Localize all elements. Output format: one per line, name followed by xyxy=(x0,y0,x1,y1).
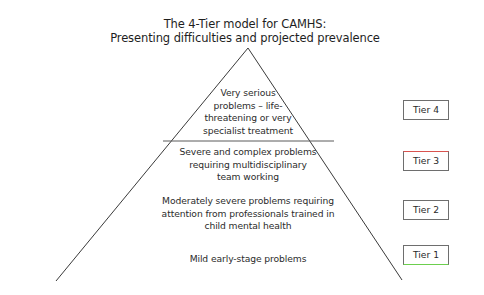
tier-3-description: Severe and complex problems requiring mu… xyxy=(148,146,348,184)
tier-1-label: Tier 1 xyxy=(403,245,449,265)
tier-2-line: Moderately severe problems requiring xyxy=(128,195,368,208)
tier-2-label: Tier 2 xyxy=(403,200,449,220)
tier-4-line: threatening or very xyxy=(168,112,328,125)
tier-1-line: Mild early-stage problems xyxy=(128,253,368,266)
tier-4-description: Very serious problems – life- threatenin… xyxy=(168,87,328,137)
tier-3-line: team working xyxy=(148,171,348,184)
tier-1-description: Mild early-stage problems xyxy=(128,253,368,266)
tier-3-line: Severe and complex problems xyxy=(148,146,348,159)
tier-3-line: requiring multidisciplinary xyxy=(148,159,348,172)
tier-4-line: Very serious xyxy=(168,87,328,100)
tier-2-description: Moderately severe problems requiring att… xyxy=(128,195,368,233)
tier-4-line: specialist treatment xyxy=(168,125,328,138)
tier-3-label: Tier 3 xyxy=(403,151,449,171)
tier-2-line: child mental health xyxy=(128,220,368,233)
tier-4-line: problems – life- xyxy=(168,100,328,113)
tier-4-label: Tier 4 xyxy=(403,100,449,120)
tier-2-line: attention from professionals trained in xyxy=(128,208,368,221)
